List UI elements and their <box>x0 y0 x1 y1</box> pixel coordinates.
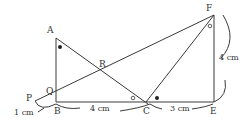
label-A: A <box>46 25 54 35</box>
arc-P-B <box>35 101 56 107</box>
label-R: R <box>99 59 106 69</box>
arc-F-right <box>221 15 230 58</box>
angle-mark-ACB-circle <box>131 96 135 100</box>
measure-CE: 3 cm <box>170 104 190 113</box>
label-E: E <box>210 106 217 116</box>
label-B: B <box>54 106 61 116</box>
measure-EF: 4 cm <box>219 53 239 62</box>
pointer-1cm <box>38 108 44 112</box>
label-C: C <box>143 106 150 116</box>
arc-E-upper <box>214 80 226 102</box>
measure-BC: 4 cm <box>90 104 110 113</box>
label-Q: Q <box>46 86 53 96</box>
angle-mark-A-dot <box>58 45 62 49</box>
label-P: P <box>26 93 32 103</box>
segment-CF <box>146 15 214 102</box>
segment-AC <box>56 38 148 104</box>
angle-mark-FCE-dot <box>155 96 159 100</box>
geometry-diagram: A B C E F P Q R 4 cm 3 cm 4 cm 1 cm <box>0 0 247 121</box>
measure-PB: 1 cm <box>14 108 34 117</box>
segment-PF <box>35 15 214 101</box>
label-F: F <box>206 3 212 13</box>
arc-C-left <box>120 104 162 111</box>
angle-mark-CFE-circle <box>208 24 212 28</box>
